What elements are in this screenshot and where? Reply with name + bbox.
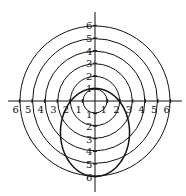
- y-label-down: 2: [86, 121, 92, 132]
- x-label-right: 6: [164, 104, 170, 115]
- y-label-up: 6: [86, 20, 92, 31]
- y-label-up: 4: [86, 46, 92, 57]
- y-label-up: 5: [86, 33, 92, 44]
- x-label-right: 5: [151, 104, 157, 115]
- y-label-down: 6: [86, 172, 92, 183]
- x-label-right: 4: [138, 104, 144, 115]
- x-label-left: 6: [12, 104, 18, 115]
- x-label-left: 3: [50, 104, 56, 115]
- x-label-right: 2: [113, 104, 119, 115]
- y-label-down: 3: [86, 134, 92, 145]
- polar-diagram: 111122223333444455556666: [0, 0, 186, 196]
- y-label-down: 4: [86, 146, 92, 157]
- x-label-left: 1: [75, 104, 81, 115]
- x-label-left: 4: [38, 104, 44, 115]
- x-label-left: 5: [25, 104, 31, 115]
- x-label-right: 1: [101, 104, 107, 115]
- polar-plot: 111122223333444455556666: [0, 0, 186, 196]
- y-label-down: 5: [86, 159, 92, 170]
- y-label-up: 2: [86, 71, 92, 82]
- y-label-up: 3: [86, 58, 92, 69]
- y-label-down: 1: [86, 109, 92, 120]
